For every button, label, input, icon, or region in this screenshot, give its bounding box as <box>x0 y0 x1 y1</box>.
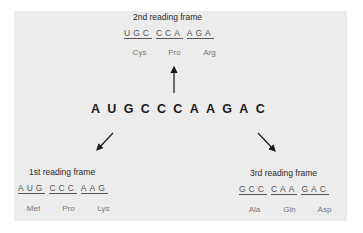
amino-acid: Gln <box>272 205 307 214</box>
amino-acid: Pro <box>51 204 86 213</box>
codon: CAA <box>271 184 297 195</box>
third-frame-title: 3rd reading frame <box>250 168 317 178</box>
amino-acid: Met <box>16 204 51 213</box>
mrna-sequence: AUGCCCAAGAC <box>91 102 272 116</box>
amino-acid: Lys <box>86 204 121 213</box>
second-frame-codons: UGC CCA AGA <box>124 28 214 39</box>
codon: CCA <box>156 28 183 39</box>
amino-acid: Arg <box>192 48 227 57</box>
codon: AGA <box>187 28 214 39</box>
arrow-down-left-icon <box>97 133 113 150</box>
third-frame-codons: GCC CAA GAC <box>239 184 329 195</box>
first-frame-amino-acids: Met Pro Lys <box>16 204 121 213</box>
codon: UGC <box>124 28 152 39</box>
amino-acid: Asp <box>307 205 342 214</box>
first-frame-codons: AUG CCC AAG <box>18 183 108 194</box>
first-frame-title: 1st reading frame <box>29 167 95 177</box>
amino-acid: Pro <box>157 48 192 57</box>
amino-acid: Ala <box>237 205 272 214</box>
codon: GAC <box>301 184 328 195</box>
second-frame-title: 2nd reading frame <box>133 12 202 22</box>
third-frame-amino-acids: Ala Gln Asp <box>237 205 342 214</box>
codon: CCC <box>49 183 76 194</box>
arrow-down-right-icon <box>258 133 275 151</box>
codon: AAG <box>81 183 108 194</box>
second-frame-amino-acids: Cys Pro Arg <box>122 48 227 57</box>
codon: AUG <box>18 183 45 194</box>
codon: GCC <box>239 184 267 195</box>
amino-acid: Cys <box>122 48 157 57</box>
